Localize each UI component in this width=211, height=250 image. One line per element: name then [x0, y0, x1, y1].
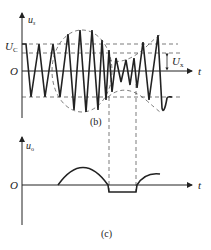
t-axis-label-c: t	[198, 179, 202, 191]
y-axis-label-c: uo	[26, 140, 34, 152]
ux-label: Ux	[172, 55, 184, 69]
projection-lines	[109, 84, 136, 192]
t-axis-label-b: t	[198, 65, 202, 77]
caption-c: (c)	[101, 228, 112, 240]
diagram-canvas: us UC O Ux t (b) uo O t (c)	[0, 0, 211, 250]
caption-b: (b)	[90, 116, 102, 128]
origin-label-c: O	[10, 179, 18, 191]
figure-c: uo O t (c)	[10, 137, 202, 240]
figure-b: us UC O Ux t (b)	[5, 13, 202, 128]
y-axis-label-b: us	[28, 14, 36, 26]
demodulated-output	[58, 168, 160, 193]
uc-label: UC	[5, 40, 18, 54]
origin-label-b: O	[10, 65, 18, 77]
